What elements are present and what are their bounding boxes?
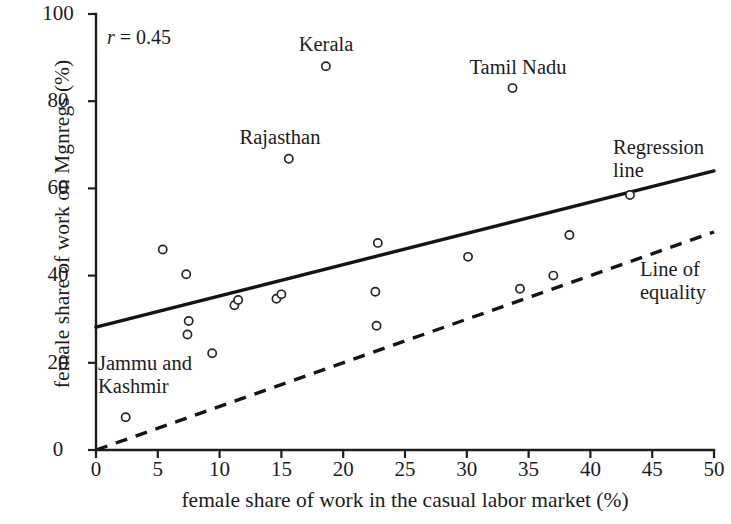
point-label-jammu-and-kashmir: Jammu andKashmir xyxy=(98,352,258,398)
data-point xyxy=(185,317,193,325)
plot-canvas xyxy=(0,0,731,524)
legend-label-line-of-equality: Line ofequality xyxy=(640,258,731,304)
line-of-equality xyxy=(96,232,714,450)
data-point xyxy=(182,270,190,278)
x-tick-label-5: 5 xyxy=(138,458,178,482)
data-point xyxy=(516,285,524,293)
x-tick-label-0: 0 xyxy=(76,458,116,482)
equality-label-line-2: equality xyxy=(640,281,706,303)
correlation-value: = 0.45 xyxy=(115,26,171,48)
x-tick-label-35: 35 xyxy=(509,458,549,482)
x-tick-label-10: 10 xyxy=(200,458,240,482)
x-tick-label-30: 30 xyxy=(447,458,487,482)
jammu-kashmir-line-2: Kashmir xyxy=(98,375,169,397)
legend-label-regression-line: Regressionline xyxy=(613,136,731,182)
x-tick-label-40: 40 xyxy=(570,458,610,482)
x-tick-label-15: 15 xyxy=(261,458,301,482)
y-axis-title: female share of work on Mgnregs (%) xyxy=(50,14,74,434)
jammu-kashmir-line-1: Jammu and xyxy=(98,352,192,374)
equality-label-line-1: Line of xyxy=(640,258,700,280)
point-label-tamil-nadu: Tamil Nadu xyxy=(448,56,588,79)
scatter-plot-figure: 100 80 60 40 20 0 0 5 10 15 20 25 30 35 … xyxy=(0,0,731,524)
x-tick-label-45: 45 xyxy=(632,458,672,482)
data-point xyxy=(234,296,242,304)
x-tick-label-20: 20 xyxy=(323,458,363,482)
data-point xyxy=(549,272,557,280)
data-point xyxy=(371,288,379,296)
data-point xyxy=(626,191,634,199)
regression-line xyxy=(96,171,714,327)
data-point xyxy=(464,253,472,261)
point-label-kerala: Kerala xyxy=(256,33,396,56)
data-point xyxy=(372,322,380,330)
regression-label-line-2: line xyxy=(613,159,644,181)
data-point xyxy=(122,413,130,421)
data-point xyxy=(508,84,516,92)
data-point xyxy=(277,290,285,298)
point-label-rajasthan: Rajasthan xyxy=(200,126,360,149)
regression-label-line-1: Regression xyxy=(613,136,704,158)
data-point xyxy=(374,239,382,247)
data-point xyxy=(159,245,167,253)
data-point xyxy=(285,155,293,163)
correlation-annotation: r = 0.45 xyxy=(107,26,171,48)
x-tick-label-50: 50 xyxy=(694,458,731,482)
x-tick-label-25: 25 xyxy=(385,458,425,482)
data-point xyxy=(183,330,191,338)
data-point xyxy=(322,62,330,70)
correlation-symbol: r xyxy=(107,26,115,48)
data-point xyxy=(565,231,573,239)
x-axis-title: female share of work in the casual labor… xyxy=(96,488,714,512)
